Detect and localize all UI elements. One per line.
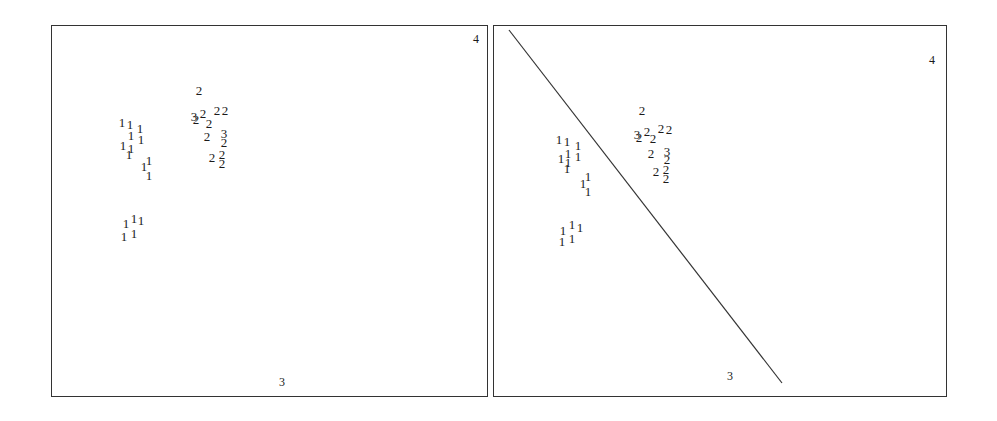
class-2-point: 2: [639, 103, 646, 118]
class-2-point: 2: [204, 129, 211, 144]
class-1-point: 1: [138, 213, 145, 228]
class-1-point: 1: [131, 226, 138, 241]
class-2-point: 2: [196, 83, 203, 98]
class-1-point: 1: [146, 153, 153, 168]
class-1-point: 1: [121, 229, 128, 244]
class-1-point: 1: [131, 211, 138, 226]
class-1-point: 1: [564, 161, 571, 176]
separator-line: [509, 30, 782, 383]
class-1-point: 1: [577, 220, 584, 235]
class-2-point: 2: [214, 103, 221, 118]
class-2-point: 2: [653, 164, 660, 179]
class-2-point: 2: [209, 150, 216, 165]
class-1-point: 1: [126, 147, 133, 162]
class-1-point: 1: [569, 217, 576, 232]
class-1-point: 1: [585, 169, 592, 184]
class-1-point: 1: [119, 115, 126, 130]
class-2-point: 2: [658, 121, 665, 136]
class-3-label: 3: [727, 369, 733, 383]
class-3-point: 3: [221, 126, 228, 141]
class-4-label: 4: [929, 53, 935, 67]
class-3-point: 3: [191, 109, 198, 124]
class-2-point: 2: [219, 156, 226, 171]
class-1-point: 1: [585, 184, 592, 199]
class-1-point: 1: [569, 231, 576, 246]
class-2-point: 2: [663, 171, 670, 186]
class-1-point: 1: [138, 132, 145, 147]
class-3-point: 3: [664, 144, 671, 159]
class-2-point: 2: [666, 122, 673, 137]
class-1-point: 1: [559, 234, 566, 249]
class-2-point: 2: [650, 131, 657, 146]
class-1-point: 1: [556, 132, 563, 147]
plot-overlay: 1111111111111111222222222223343111111111…: [0, 0, 997, 421]
class-3-label: 3: [279, 375, 285, 389]
panel-left-content: 1111111111111111222222222223343: [119, 32, 479, 389]
class-3-point: 3: [634, 127, 641, 142]
class-1-point: 1: [146, 168, 153, 183]
class-4-label: 4: [473, 32, 479, 46]
class-2-point: 2: [648, 146, 655, 161]
class-2-point: 2: [222, 103, 229, 118]
class-1-point: 1: [575, 149, 582, 164]
panel-right-content: 1111111111111111222222222223343: [509, 30, 935, 383]
